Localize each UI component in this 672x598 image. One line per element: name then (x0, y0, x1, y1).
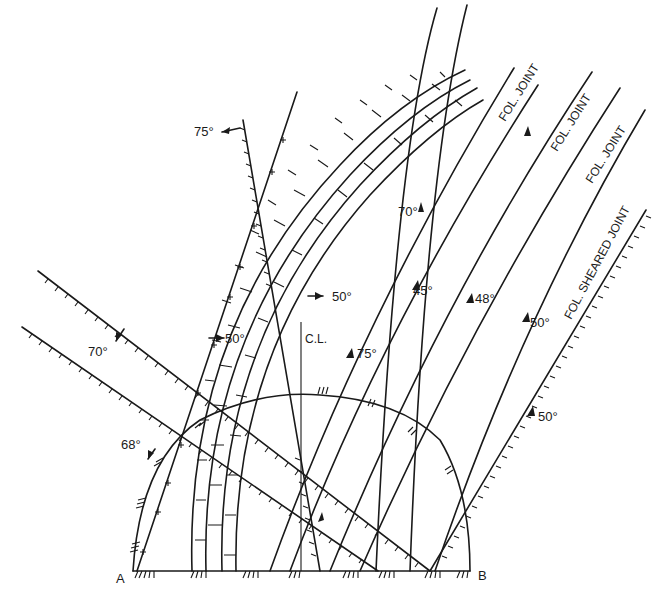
fol-sheared-joint (430, 210, 651, 571)
dip-label-48: 48° (475, 291, 495, 306)
joint-label-4: FOL. SHEARED JOINT (561, 203, 633, 321)
baseline-ab (133, 571, 470, 578)
dip-label-50c: 50° (530, 315, 550, 330)
joint-label-3: FOL. JOINT (583, 123, 629, 186)
point-a-label: A (116, 571, 125, 586)
fault-70 (38, 271, 430, 571)
arch-hatch-marks (130, 387, 453, 552)
dip-label-45: 45° (413, 283, 433, 298)
dip-label-75a: 75° (194, 124, 214, 139)
bedded-layer (192, 70, 483, 571)
dip-label-50d: 50° (538, 409, 558, 424)
fol-joint-5 (435, 110, 645, 571)
dip-label-68: 68° (121, 437, 141, 452)
point-b-label: B (478, 568, 487, 583)
dip-label-50b: 50° (332, 289, 352, 304)
joint-label-2: FOL. JOINT (548, 91, 594, 154)
dip-label-75b: 75° (357, 346, 377, 361)
dip-label-50a: 50° (225, 331, 245, 346)
fault-68 (22, 327, 378, 571)
dip-label-70a: 70° (88, 344, 108, 359)
dip-label-70b: 70° (398, 204, 418, 219)
dip-arrows (116, 126, 535, 522)
geological-section-diagram: A B C.L. 75° 70° 68° 50° 50° 75° 70° 45°… (0, 0, 672, 598)
centre-line-label: C.L. (305, 332, 327, 346)
fol-joint-2 (290, 85, 538, 571)
